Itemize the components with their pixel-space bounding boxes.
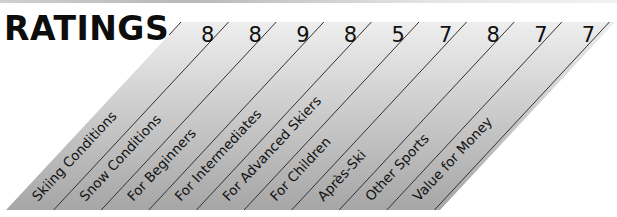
rating-score: 7 (534, 23, 547, 47)
rating-score: 8 (487, 23, 500, 47)
rating-score: 7 (439, 23, 452, 47)
rating-score: 5 (391, 23, 404, 47)
rating-score: 8 (249, 23, 262, 47)
rating-score: 9 (296, 23, 309, 47)
rating-score: 7 (582, 23, 595, 47)
rating-score: 8 (201, 23, 214, 47)
ratings-panel: 8Skiing Conditions8Snow Conditions9For B… (0, 0, 617, 217)
rating-score: 8 (344, 23, 357, 47)
